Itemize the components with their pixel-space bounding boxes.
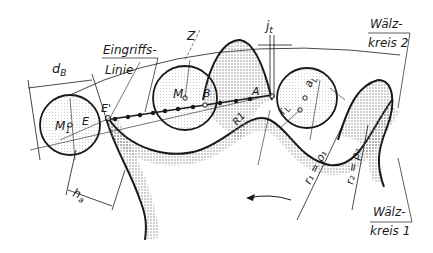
rotation-arrow xyxy=(248,196,291,200)
label-ha: ha xyxy=(70,186,87,205)
label-waelzkreis1-1: Wälz- xyxy=(373,205,406,219)
label-e: E xyxy=(82,115,89,128)
label-waelzkreis1-2: kreis 1 xyxy=(370,224,410,238)
label-eingriffslinie-1: Eingriffs- xyxy=(103,43,157,57)
label-dB: dB xyxy=(52,61,66,78)
label-eingriffslinie-2: Linie xyxy=(105,63,133,77)
label-waelzkreis2-2: kreis 2 xyxy=(368,36,408,50)
label-e-prime: E' xyxy=(101,102,111,115)
gear-mesh-diagram: dB Eingriffs- Linie Z jt Wälz- kreis 2 M… xyxy=(0,0,433,253)
label-m: M xyxy=(173,87,184,101)
rotation-arrowhead xyxy=(246,194,255,201)
label-a: A xyxy=(251,85,260,98)
label-z: Z xyxy=(186,29,196,43)
label-waelzkreis2-1: Wälz- xyxy=(370,17,403,31)
label-jt: jt xyxy=(264,19,273,35)
label-b: B xyxy=(203,87,211,100)
